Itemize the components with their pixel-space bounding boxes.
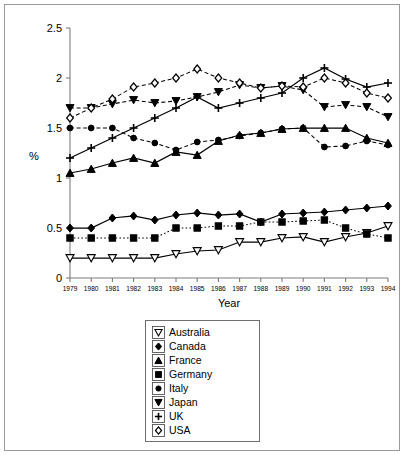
x-tick-label: 1990 bbox=[296, 285, 311, 292]
legend-item-australia: Australia bbox=[152, 325, 253, 339]
data-point-triangle-down-open bbox=[320, 239, 328, 246]
data-point-triangle-down-filled bbox=[384, 114, 392, 121]
legend-item-label: Italy bbox=[169, 381, 188, 395]
legend-item-label: France bbox=[169, 353, 202, 367]
data-point-plus bbox=[299, 74, 307, 82]
y-tick-label: 0 bbox=[56, 272, 62, 284]
legend-item-italy: Italy bbox=[152, 381, 253, 395]
data-point-circle-filled bbox=[364, 138, 370, 144]
x-tick-label: 1983 bbox=[147, 285, 162, 292]
data-point-circle-filled bbox=[279, 126, 285, 132]
x-tick-label: 1985 bbox=[190, 285, 205, 292]
data-point-diamond-open bbox=[151, 79, 158, 87]
triangle-down-filled-icon bbox=[152, 396, 165, 409]
x-tick-label: 1993 bbox=[359, 285, 374, 292]
data-point-circle-filled bbox=[322, 144, 328, 150]
chart-svg: 00.511.522.5%197919801981198219831984198… bbox=[0, 0, 405, 310]
x-axis-title: Year bbox=[218, 297, 241, 309]
data-point-diamond-open bbox=[363, 89, 370, 97]
data-point-square-filled bbox=[258, 219, 264, 225]
data-point-triangle-up-filled bbox=[130, 154, 138, 161]
data-point-square-filled bbox=[88, 235, 94, 241]
data-point-plus bbox=[108, 134, 116, 142]
data-point-square-filled bbox=[194, 225, 200, 231]
legend-item-uk: UK bbox=[152, 409, 253, 423]
series-france bbox=[66, 124, 392, 176]
data-point-diamond-filled bbox=[321, 208, 328, 216]
legend-item-canada: Canada bbox=[152, 339, 253, 353]
data-point-diamond-open bbox=[385, 94, 392, 102]
y-axis-ticks: 00.511.522.5 bbox=[47, 22, 70, 284]
plus-icon bbox=[152, 410, 165, 423]
x-tick-label: 1980 bbox=[84, 285, 99, 292]
data-point-plus bbox=[257, 94, 265, 102]
x-tick-label: 1991 bbox=[317, 285, 332, 292]
data-point-diamond-filled bbox=[300, 209, 307, 217]
x-tick-label: 1994 bbox=[381, 285, 396, 292]
data-point-circle-filled bbox=[88, 125, 94, 131]
data-point-diamond-open bbox=[215, 74, 222, 82]
triangle-down-open-icon bbox=[152, 326, 165, 339]
data-point-square-filled bbox=[152, 235, 158, 241]
y-tick-label: 1 bbox=[56, 172, 62, 184]
data-point-circle-filled bbox=[237, 133, 243, 139]
legend-item-japan: Japan bbox=[152, 395, 253, 409]
data-point-square-filled bbox=[236, 223, 242, 229]
square-filled-icon bbox=[152, 368, 165, 381]
series-usa bbox=[67, 65, 392, 122]
diamond-filled-icon bbox=[152, 340, 165, 353]
data-point-circle-filled bbox=[173, 147, 179, 153]
data-point-circle-filled bbox=[131, 135, 137, 141]
data-point-diamond-filled bbox=[279, 210, 286, 218]
y-tick-label: 2.5 bbox=[47, 22, 62, 34]
data-point-diamond-open bbox=[67, 114, 74, 122]
data-point-diamond-filled bbox=[88, 224, 95, 232]
data-point-triangle-down-filled bbox=[342, 102, 350, 109]
legend-item-label: UK bbox=[169, 409, 184, 423]
data-point-diamond-open bbox=[173, 74, 180, 82]
legend-marker-diamond-open bbox=[152, 424, 165, 437]
data-point-square-filled bbox=[342, 225, 348, 231]
data-point-circle-filled bbox=[300, 125, 306, 131]
x-tick-label: 1982 bbox=[126, 285, 141, 292]
x-tick-label: 1981 bbox=[105, 285, 120, 292]
data-point-circle-filled bbox=[156, 385, 161, 390]
data-point-diamond-filled bbox=[236, 210, 243, 218]
x-axis-ticks: 1979198019811982198319841985198619871988… bbox=[63, 278, 396, 292]
y-tick-label: 0.5 bbox=[47, 222, 62, 234]
data-point-square-filled bbox=[385, 235, 391, 241]
x-tick-label: 1984 bbox=[169, 285, 184, 292]
y-axis-title: % bbox=[29, 150, 39, 162]
data-point-circle-filled bbox=[194, 139, 200, 145]
data-point-plus bbox=[87, 144, 95, 152]
legend-item-label: Germany bbox=[169, 367, 212, 381]
data-point-plus bbox=[130, 124, 138, 132]
x-tick-label: 1989 bbox=[275, 285, 290, 292]
legend-item-label: Australia bbox=[169, 325, 210, 339]
data-point-square-filled bbox=[215, 223, 221, 229]
legend-item-germany: Germany bbox=[152, 367, 253, 381]
data-point-diamond-filled bbox=[363, 204, 370, 212]
data-point-circle-filled bbox=[258, 130, 264, 136]
data-point-plus bbox=[384, 79, 392, 87]
data-point-square-filled bbox=[300, 218, 306, 224]
data-point-triangle-down-open bbox=[384, 223, 392, 230]
data-point-diamond-filled bbox=[67, 224, 74, 232]
legend-marker-square-filled bbox=[152, 368, 165, 381]
data-point-square-filled bbox=[279, 219, 285, 225]
series-japan bbox=[66, 82, 392, 121]
data-point-circle-filled bbox=[110, 125, 116, 131]
legend-marker-triangle-up-filled bbox=[152, 354, 165, 367]
x-tick-label: 1988 bbox=[253, 285, 268, 292]
circle-filled-icon bbox=[152, 382, 165, 395]
data-point-plus bbox=[66, 154, 74, 162]
data-point-diamond-filled bbox=[109, 214, 116, 222]
data-point-circle-filled bbox=[67, 125, 73, 131]
data-point-circle-filled bbox=[385, 142, 391, 148]
axes bbox=[70, 28, 388, 278]
data-point-plus bbox=[172, 104, 180, 112]
data-point-square-filled bbox=[364, 231, 370, 237]
legend-item-label: Japan bbox=[169, 395, 198, 409]
data-point-square-filled bbox=[130, 235, 136, 241]
y-tick-label: 1.5 bbox=[47, 122, 62, 134]
